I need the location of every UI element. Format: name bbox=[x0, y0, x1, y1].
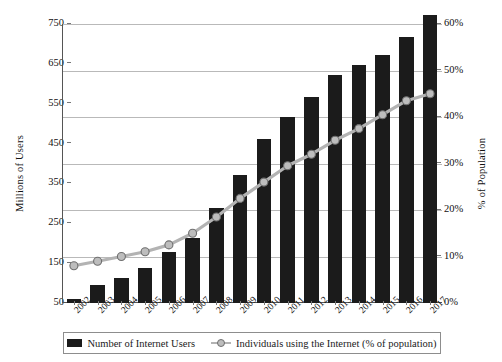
line-marker bbox=[94, 257, 102, 265]
bar-swatch-icon bbox=[67, 339, 82, 347]
chart-legend: Number of Internet Users Individuals usi… bbox=[63, 332, 441, 354]
y-tick-label-left: 350 bbox=[4, 176, 64, 187]
y-tick-label-left: 250 bbox=[4, 216, 64, 227]
y-tick-label-right: 10% bbox=[444, 250, 502, 261]
line-marker-swatch-icon bbox=[211, 338, 231, 348]
y-tick-label-left: 550 bbox=[4, 97, 64, 108]
y-tick-label-left: 50 bbox=[4, 296, 64, 307]
line-marker bbox=[189, 229, 197, 237]
line-marker bbox=[402, 97, 410, 105]
legend-item-line: Individuals using the Internet (% of pop… bbox=[211, 338, 437, 349]
plot-area bbox=[62, 24, 442, 303]
line-marker bbox=[307, 150, 315, 158]
line-path bbox=[74, 94, 430, 266]
line-marker bbox=[236, 194, 244, 202]
y-tick-label-left: 750 bbox=[4, 17, 64, 28]
legend-label-line: Individuals using the Internet (% of pop… bbox=[236, 338, 437, 349]
line-marker bbox=[70, 262, 78, 270]
line-marker bbox=[117, 253, 125, 261]
y-tick-label-right: 60% bbox=[444, 17, 502, 28]
legend-label-bars: Number of Internet Users bbox=[87, 338, 195, 349]
y-tick-label-left: 150 bbox=[4, 256, 64, 267]
line-marker bbox=[212, 213, 220, 221]
x-axis-ticks: 2002200320042005200620072008200920102011… bbox=[62, 305, 442, 335]
y-tick-label-left: 450 bbox=[4, 137, 64, 148]
line-marker bbox=[426, 90, 434, 98]
line-marker bbox=[260, 178, 268, 186]
line-marker bbox=[165, 241, 173, 249]
y-axis-right-title: % of Population bbox=[476, 109, 487, 239]
line-marker bbox=[284, 162, 292, 170]
internet-users-chart: Millions of Users % of Population 501502… bbox=[0, 0, 502, 362]
line-marker bbox=[355, 125, 363, 133]
y-tick-label-right: 20% bbox=[444, 203, 502, 214]
y-tick-label-right: 50% bbox=[444, 64, 502, 75]
y-tick-label-left: 650 bbox=[4, 57, 64, 68]
y-tick-label-right: 0% bbox=[444, 296, 502, 307]
line-marker bbox=[379, 111, 387, 119]
legend-item-bars: Number of Internet Users bbox=[67, 338, 195, 349]
line-series bbox=[62, 24, 442, 303]
line-marker bbox=[331, 136, 339, 144]
y-tick-label-right: 30% bbox=[444, 157, 502, 168]
line-marker bbox=[141, 248, 149, 256]
y-tick-label-right: 40% bbox=[444, 110, 502, 121]
